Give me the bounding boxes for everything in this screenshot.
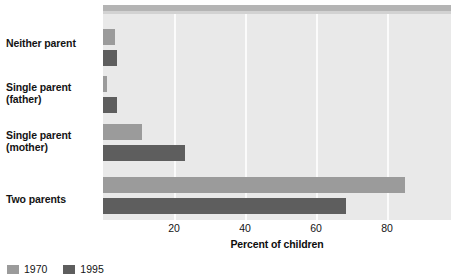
x-axis-title: Percent of children <box>103 238 451 250</box>
bar-1995-two-parents <box>103 198 346 214</box>
chart-legend: 19701995 <box>7 263 120 275</box>
category-label-0: Neither parent <box>6 37 100 50</box>
category-label-2: Single parent(mother) <box>6 129 100 154</box>
category-label-line2: (mother) <box>6 141 100 154</box>
legend-swatch-1970 <box>7 265 19 274</box>
category-label-line2: (father) <box>6 93 100 106</box>
bar-1970-neither-parent <box>103 29 115 45</box>
x-tick-label-80: 80 <box>367 222 407 234</box>
plot-area <box>103 5 451 220</box>
category-label-1: Single parent(father) <box>6 81 100 106</box>
bar-1995-single-parent-father- <box>103 97 117 113</box>
bar-1995-single-parent-mother- <box>103 145 185 161</box>
x-tick-label-20: 20 <box>154 222 194 234</box>
x-tick-label-40: 40 <box>225 222 265 234</box>
bar-1970-single-parent-mother- <box>103 124 142 140</box>
legend-label-1970: 1970 <box>24 263 47 275</box>
bar-chart: Neither parentSingle parent(father)Singl… <box>0 0 451 280</box>
category-label-line1: Two parents <box>6 193 100 206</box>
category-label-3: Two parents <box>6 193 100 206</box>
legend-item-1970: 1970 <box>7 263 47 275</box>
category-label-line1: Single parent <box>6 129 100 142</box>
category-label-line1: Neither parent <box>6 37 100 50</box>
bar-1970-single-parent-father- <box>103 76 107 92</box>
bar-1970-two-parents <box>103 177 405 193</box>
legend-swatch-1995 <box>63 265 75 274</box>
bar-1995-neither-parent <box>103 50 117 66</box>
bars-layer <box>103 5 451 220</box>
x-tick-label-60: 60 <box>296 222 336 234</box>
category-label-line1: Single parent <box>6 81 100 94</box>
legend-item-1995: 1995 <box>63 263 103 275</box>
legend-label-1995: 1995 <box>80 263 103 275</box>
